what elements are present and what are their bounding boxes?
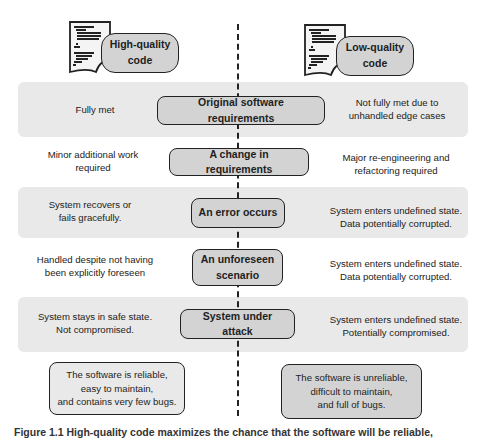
header-high-quality-code: High-qualitycode: [101, 33, 179, 73]
summary-text: The software is unreliable,: [296, 371, 408, 385]
outcome-text: fails gracefully.: [25, 211, 155, 224]
header-low-quality-code: Low-qualitycode: [336, 36, 414, 76]
header-label: Low-quality: [346, 40, 404, 56]
high-outcome-row-3: System recovers or fails gracefully.: [25, 198, 155, 225]
high-outcome-row-2: Minor additional work required: [28, 148, 158, 175]
summary-high-quality: The software is reliable, easy to mainta…: [49, 362, 185, 415]
high-outcome-row-5: System stays in safe state. Not compromi…: [25, 310, 165, 337]
outcome-text: Fully met: [30, 103, 160, 116]
event-label: Original software requirements: [164, 95, 318, 125]
outcome-text: Not compromised.: [25, 323, 165, 336]
outcome-text: required: [28, 161, 158, 174]
event-node-row-1: Original software requirements: [157, 96, 325, 125]
event-label: An unforeseen: [201, 252, 275, 267]
event-label: scenario: [201, 268, 275, 283]
high-outcome-row-1: Fully met: [30, 103, 160, 116]
outcome-text: Minor additional work: [28, 148, 158, 161]
low-outcome-row-5: System enters undefined state. Potential…: [318, 313, 474, 340]
summary-text: and full of bugs.: [296, 398, 408, 412]
outcome-text: Handled despite not having: [20, 253, 170, 266]
outcome-text: System recovers or: [25, 198, 155, 211]
outcome-text: System enters undefined state.: [318, 204, 474, 217]
low-outcome-row-1: Not fully met due to unhandled edge case…: [332, 96, 462, 123]
event-node-row-2: A change in requirements: [169, 148, 309, 176]
event-label: A change in requirements: [176, 147, 302, 177]
outcome-text: Data potentially corrupted.: [318, 217, 474, 230]
outcome-text: System enters undefined state.: [318, 313, 474, 326]
event-label: System under attack: [187, 309, 288, 339]
summary-text: difficult to maintain,: [296, 385, 408, 399]
outcome-text: refactoring required: [326, 164, 466, 177]
summary-text: and contains very few bugs.: [58, 395, 177, 409]
low-outcome-row-4: System enters undefined state. Data pote…: [318, 257, 474, 284]
outcome-text: System stays in safe state.: [25, 310, 165, 323]
outcome-text: Not fully met due to: [332, 96, 462, 109]
outcome-text: been explicitly foreseen: [20, 266, 170, 279]
event-node-row-4: An unforeseenscenario: [192, 249, 283, 286]
outcome-text: unhandled edge cases: [332, 109, 462, 122]
low-outcome-row-3: System enters undefined state. Data pote…: [318, 204, 474, 231]
outcome-text: Potentially compromised.: [318, 326, 474, 339]
event-label: An error occurs: [199, 205, 278, 220]
event-node-row-5: System under attack: [180, 309, 295, 339]
low-outcome-row-2: Major re-engineering and refactoring req…: [326, 151, 466, 178]
figure-caption: Figure 1.1 High-quality code maximizes t…: [14, 426, 433, 438]
outcome-text: Major re-engineering and: [326, 151, 466, 164]
header-label: High-quality: [110, 37, 171, 53]
outcome-text: System enters undefined state.: [318, 257, 474, 270]
event-node-row-3: An error occurs: [191, 198, 285, 228]
outcome-text: Data potentially corrupted.: [318, 270, 474, 283]
header-label: code: [110, 53, 171, 69]
summary-text: easy to maintain,: [58, 382, 177, 396]
summary-low-quality: The software is unreliable, difficult to…: [281, 364, 422, 419]
summary-text: The software is reliable,: [58, 368, 177, 382]
header-label: code: [346, 56, 404, 72]
high-outcome-row-4: Handled despite not having been explicit…: [20, 253, 170, 280]
